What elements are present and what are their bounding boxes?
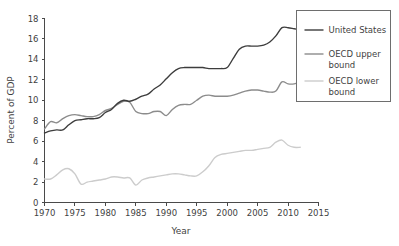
legend-label-0: United States bbox=[329, 25, 387, 35]
x-axis-title: Year bbox=[170, 226, 190, 236]
legend-label-1: bound bbox=[329, 60, 356, 70]
x-tick-label: 2000 bbox=[216, 208, 238, 218]
x-tick-label: 1980 bbox=[95, 208, 117, 218]
x-tick-label: 2005 bbox=[247, 208, 269, 218]
y-tick-label: 16 bbox=[28, 34, 39, 44]
x-tick-label: 1995 bbox=[186, 208, 208, 218]
y-tick-label: 6 bbox=[33, 136, 38, 146]
y-tick-label: 10 bbox=[28, 95, 39, 105]
y-tick-label: 18 bbox=[28, 14, 39, 24]
x-tick-label: 1985 bbox=[125, 208, 147, 218]
x-tick-label: 2010 bbox=[277, 208, 299, 218]
y-tick-label: 0 bbox=[33, 198, 38, 208]
y-tick-label: 2 bbox=[33, 177, 38, 187]
chart-legend: United StatesOECD upperboundOECD lowerbo… bbox=[297, 11, 391, 102]
y-tick-label: 14 bbox=[28, 54, 39, 64]
legend-label-1: OECD upper bbox=[329, 49, 382, 59]
y-tick-label: 8 bbox=[33, 116, 38, 126]
y-tick-label: 4 bbox=[33, 157, 38, 167]
x-tick-label: 1975 bbox=[64, 208, 86, 218]
x-tick-label: 1970 bbox=[34, 208, 56, 218]
x-tick-label: 2015 bbox=[308, 208, 330, 218]
legend-label-2: OECD lower bbox=[329, 76, 380, 86]
x-tick-label: 1990 bbox=[155, 208, 177, 218]
chart-figure: 024681012141618 197019751980198519901995… bbox=[0, 0, 399, 246]
y-axis-title: Percent of GDP bbox=[6, 76, 16, 144]
line-chart: 024681012141618 197019751980198519901995… bbox=[0, 0, 399, 246]
legend-label-2: bound bbox=[329, 87, 356, 97]
y-tick-label: 12 bbox=[28, 75, 39, 85]
